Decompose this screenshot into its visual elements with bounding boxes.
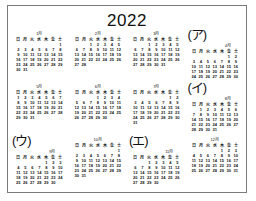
- page-title: 2022: [8, 11, 246, 30]
- day-cell-empty: [190, 173, 197, 178]
- question-tag: (ウ): [12, 134, 31, 147]
- month-block: (エ)11月日月火水木金土123456789101112131415161718…: [127, 137, 186, 190]
- day-cell-empty: [204, 173, 211, 178]
- day-cell[interactable]: 31: [80, 173, 87, 178]
- day-cell-empty: [167, 67, 174, 72]
- month-table: 日月火水木金土123456789101112131415161718192021…: [73, 90, 122, 125]
- day-cell-empty: [73, 120, 80, 125]
- week-row: 3031: [15, 67, 64, 72]
- month-label: 12月: [186, 137, 245, 142]
- calendar-frame: 2022 1月日月火水木金土12345678910111213141516171…: [7, 5, 247, 193]
- day-cell-empty: [87, 120, 94, 125]
- week-row: [190, 173, 239, 178]
- day-cell-empty: [101, 67, 108, 72]
- day-cell-empty: [50, 67, 57, 72]
- month-table: 日月火水木金土123456789101112131415161718192021…: [132, 90, 181, 125]
- day-cell-empty: [15, 120, 22, 125]
- week-row: [132, 67, 181, 72]
- day-cell-empty: [43, 120, 50, 125]
- month-block: (イ)8月日月火水木金土1234567891011121314151617181…: [186, 84, 245, 137]
- month-label: 3月: [127, 31, 186, 36]
- question-tag: (ア): [188, 28, 207, 41]
- day-cell-empty: [174, 67, 181, 72]
- week-row: 31: [132, 120, 181, 125]
- day-cell-empty: [36, 67, 43, 72]
- day-cell-empty: [94, 67, 101, 72]
- day-cell-empty: [101, 173, 108, 178]
- months-grid: 1月日月火水木金土1234567891011121314151617181920…: [8, 31, 246, 190]
- month-table: 日月火水木金土123456789101112131415161718192021…: [190, 143, 239, 178]
- day-cell-empty: [167, 120, 174, 125]
- month-table: 日月火水木金土123456789101112131415161718192021…: [190, 102, 239, 137]
- day-cell-empty: [174, 185, 181, 190]
- month-block: 10月日月火水木金土123456789101112131415161718192…: [69, 137, 128, 190]
- day-cell-empty: [115, 120, 122, 125]
- day-cell-empty: [153, 67, 160, 72]
- day-cell-empty: [139, 67, 146, 72]
- day-cell-empty: [167, 185, 174, 190]
- day-cell-empty: [132, 185, 139, 190]
- day-cell-empty: [94, 120, 101, 125]
- day-cell-empty: [108, 120, 115, 125]
- month-table: 日月火水木金土123456789101112131415161718192021…: [73, 143, 122, 178]
- day-cell-empty: [153, 120, 160, 125]
- month-table: 日月火水木金土123456789101112131415161718192021…: [15, 90, 64, 125]
- day-cell-empty: [139, 120, 146, 125]
- day-cell-empty: [108, 173, 115, 178]
- day-cell-empty: [160, 120, 167, 125]
- month-label: 7月: [127, 84, 186, 89]
- month-label: 2月: [69, 31, 128, 36]
- day-cell[interactable]: 30: [73, 173, 80, 178]
- day-cell-empty: [218, 173, 225, 178]
- day-cell-empty: [57, 185, 64, 190]
- week-row: 3031: [73, 173, 122, 178]
- month-label: 4月: [225, 43, 231, 48]
- day-cell-empty: [80, 120, 87, 125]
- day-cell-empty: [43, 67, 50, 72]
- day-cell-empty: [146, 120, 153, 125]
- day-cell-empty: [132, 67, 139, 72]
- month-block: 5月日月火水木金土1234567891011121314151617181920…: [10, 84, 69, 137]
- month-label: 8月: [225, 96, 231, 101]
- month-table: 日月火水木金土123456789101112131415161718192021…: [132, 37, 181, 72]
- day-cell-empty: [43, 185, 50, 190]
- day-cell-empty: [29, 67, 36, 72]
- month-label: 6月: [69, 84, 128, 89]
- day-cell-empty: [108, 67, 115, 72]
- day-cell-empty: [153, 185, 160, 190]
- day-cell-empty: [87, 67, 94, 72]
- month-block: 12月日月火水木金土123456789101112131415161718192…: [186, 137, 245, 190]
- month-block: 2月日月火水木金土1234567891011121314151617181920…: [69, 31, 128, 84]
- day-cell-empty: [197, 173, 204, 178]
- day-cell-empty: [160, 185, 167, 190]
- day-cell-empty: [139, 185, 146, 190]
- day-cell-empty: [29, 185, 36, 190]
- week-row: [15, 185, 64, 190]
- week-row: [73, 120, 122, 125]
- day-cell[interactable]: 30: [15, 67, 22, 72]
- day-cell-empty: [73, 67, 80, 72]
- day-cell-empty: [225, 173, 232, 178]
- month-block: 7月日月火水木金土1234567891011121314151617181920…: [127, 84, 186, 137]
- month-table: 日月火水木金土123456789101112131415161718192021…: [73, 37, 122, 72]
- month-label: 9月: [49, 149, 55, 154]
- day-cell[interactable]: 31: [22, 67, 29, 72]
- day-cell-empty: [15, 185, 22, 190]
- day-cell-empty: [115, 67, 122, 72]
- day-cell-empty: [211, 173, 218, 178]
- day-cell-empty: [29, 120, 36, 125]
- month-label: 5月: [10, 84, 69, 89]
- month-table: 日月火水木金土123456789101112131415161718192021…: [132, 155, 181, 190]
- question-tag: (イ): [188, 81, 207, 94]
- month-label: 11月: [165, 149, 173, 154]
- week-row: [73, 67, 122, 72]
- day-cell-empty: [36, 185, 43, 190]
- day-cell[interactable]: 31: [132, 120, 139, 125]
- week-row: [15, 120, 64, 125]
- day-cell-empty: [57, 67, 64, 72]
- month-block: 1月日月火水木金土1234567891011121314151617181920…: [10, 31, 69, 84]
- day-cell-empty: [22, 185, 29, 190]
- month-table: 日月火水木金土123456789101112131415161718192021…: [15, 155, 64, 190]
- month-block: 3月日月火水木金土1234567891011121314151617181920…: [127, 31, 186, 84]
- day-cell-empty: [115, 173, 122, 178]
